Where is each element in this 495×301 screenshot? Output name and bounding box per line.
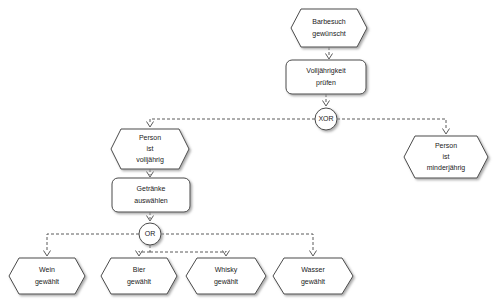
event-wasser-gewaehlt[interactable]: [273, 258, 353, 294]
edge-xor-to-minderjaehrig: [337, 119, 450, 134]
epc-canvas: Barbesuch gewünscht Volljährigkeit prüfe…: [0, 0, 495, 301]
event-wein-gewaehlt-line1: Wein: [39, 266, 55, 273]
event-person-ist-volljaehrig-line1: Person: [139, 134, 161, 141]
event-person-ist-minderjaehrig-line2: ist: [443, 153, 450, 160]
event-wein-gewaehlt[interactable]: [9, 258, 85, 294]
event-barbesuch-gewuenscht-line1: Barbesuch: [312, 18, 346, 25]
event-bier-gewaehlt-line2: gewählt: [127, 278, 151, 286]
function-volljaehrigkeit-pruefen[interactable]: [286, 60, 366, 94]
event-bier-gewaehlt[interactable]: [101, 258, 177, 294]
function-getraenke-auswaehlen-line1: Getränke: [137, 185, 166, 192]
edge-or-to-wein: [44, 234, 140, 256]
epc-diagram: Barbesuch gewünscht Volljährigkeit prüfe…: [0, 0, 495, 301]
event-wasser-gewaehlt-line1: Wasser: [301, 266, 325, 273]
event-person-ist-volljaehrig-line2: ist: [147, 145, 154, 152]
connector-xor-label: XOR: [318, 115, 333, 122]
event-person-ist-volljaehrig-line3: volljährig: [136, 156, 164, 164]
edge-volljaehrig-to-getraenke: [147, 169, 154, 177]
function-getraenke-auswaehlen-line2: auswählen: [134, 197, 168, 204]
function-volljaehrigkeit-pruefen-line1: Volljährigkeit: [306, 67, 345, 75]
edge-barbesuch-to-volljaehrigkeit: [326, 47, 333, 59]
event-wasser-gewaehlt-line2: gewählt: [301, 278, 325, 286]
edge-or-to-bier: [136, 251, 151, 257]
connector-or-label: OR: [145, 230, 156, 237]
event-barbesuch-gewuenscht[interactable]: [291, 9, 367, 47]
edge-getraenke-to-or: [147, 212, 154, 221]
edge-or-to-wasser: [161, 234, 317, 256]
event-person-ist-minderjaehrig-line1: Person: [435, 142, 457, 149]
flow-lines: [44, 47, 450, 256]
event-person-ist-minderjaehrig-line3: minderjährig: [427, 164, 466, 172]
function-getraenke-auswaehlen[interactable]: [112, 178, 190, 212]
event-wein-gewaehlt-line2: gewählt: [35, 278, 59, 286]
event-bier-gewaehlt-line1: Bier: [133, 266, 146, 273]
event-whisky-gewaehlt-line2: gewählt: [214, 278, 238, 286]
function-volljaehrigkeit-pruefen-line2: prüfen: [316, 79, 336, 87]
edge-xor-to-volljaehrig: [147, 119, 316, 127]
event-whisky-gewaehlt[interactable]: [186, 258, 266, 294]
event-barbesuch-gewuenscht-line2: gewünscht: [312, 30, 346, 38]
edge-volljaehrigkeit-to-xor: [323, 94, 330, 106]
edge-or-to-whisky: [150, 251, 230, 257]
event-whisky-gewaehlt-line1: Whisky: [215, 266, 238, 274]
